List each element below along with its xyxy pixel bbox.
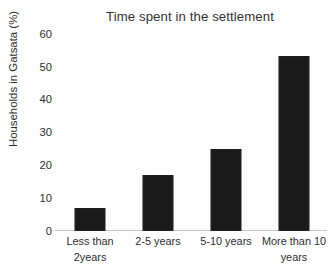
bar-2-5-years[interactable] bbox=[143, 175, 174, 231]
bar-series bbox=[57, 0, 327, 231]
bar-slot-1 bbox=[125, 0, 191, 231]
bar-slot-3 bbox=[261, 0, 327, 231]
bar-slot-0 bbox=[57, 0, 123, 231]
y-tick-10: 10 bbox=[30, 193, 52, 204]
bar-5-10-years[interactable] bbox=[211, 149, 242, 232]
y-tick-0: 0 bbox=[30, 226, 52, 237]
y-tick-30: 30 bbox=[30, 127, 52, 138]
y-tick-40: 40 bbox=[30, 94, 52, 105]
y-axis-label-text: Households in Gatsata (%) bbox=[7, 4, 19, 154]
y-axis-ticks: 60 50 40 30 20 10 0 bbox=[26, 0, 52, 279]
y-axis-label: Households in Gatsata (%) bbox=[7, 4, 25, 154]
bar-more-than-10-years[interactable] bbox=[279, 56, 310, 231]
bar-chart: Time spent in the settlement Households … bbox=[0, 0, 336, 279]
y-tick-50: 50 bbox=[30, 62, 52, 73]
x-label-2: 5-10 years bbox=[187, 234, 265, 250]
x-label-3: More than 10 years bbox=[255, 234, 333, 265]
x-label-1-line1: 2-5 years bbox=[135, 235, 180, 247]
x-label-0-line2: 2years bbox=[51, 250, 129, 266]
x-label-1: 2-5 years bbox=[119, 234, 197, 250]
x-label-2-line1: 5-10 years bbox=[200, 235, 251, 247]
x-label-0: Less than 2years bbox=[51, 234, 129, 265]
y-tick-20: 20 bbox=[30, 160, 52, 171]
x-label-0-line1: Less than bbox=[66, 235, 113, 247]
x-label-3-line2: years bbox=[255, 250, 333, 266]
x-label-3-line1: More than 10 bbox=[262, 235, 326, 247]
bar-less-than-2years[interactable] bbox=[75, 208, 106, 231]
bar-slot-2 bbox=[193, 0, 259, 231]
x-axis-labels: Less than 2years 2-5 years 5-10 years Mo… bbox=[51, 234, 333, 278]
y-tick-60: 60 bbox=[30, 29, 52, 40]
